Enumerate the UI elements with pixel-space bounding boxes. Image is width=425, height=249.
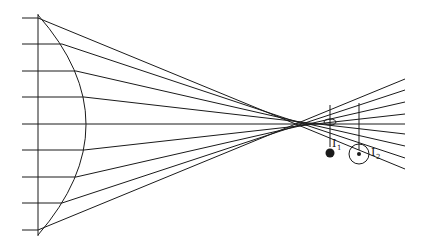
spherical-aberration-diagram: I 1 I 2 [0,0,425,249]
image2-label: I [371,146,375,159]
image2-subscript: 2 [376,153,380,161]
image2-center-dot [357,152,361,156]
lens-curved-face [38,15,86,235]
image1-subscript: 1 [337,144,341,152]
image1-label: I [332,137,336,150]
refracted-rays [38,18,405,230]
